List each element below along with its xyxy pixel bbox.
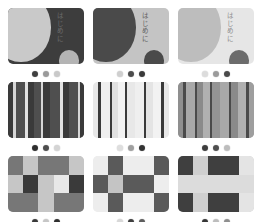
swatch-row — [202, 143, 230, 152]
color-swatch[interactable] — [224, 219, 230, 223]
palette-preview-tile[interactable] — [8, 156, 84, 212]
palette-grid: はじめにはじめにはじめに — [0, 0, 262, 222]
stripe-band — [164, 82, 169, 138]
checker-cell — [178, 193, 193, 212]
palette-preview-tile[interactable]: はじめに — [178, 8, 254, 64]
swatch-row — [32, 69, 60, 78]
stripe-band — [220, 82, 229, 138]
stripe-band — [153, 82, 161, 138]
checker-cell — [23, 156, 38, 175]
checker-cell — [123, 156, 138, 175]
palette-preview-tile[interactable] — [8, 82, 84, 138]
color-swatch[interactable] — [43, 71, 49, 77]
stripe-band — [69, 82, 77, 138]
color-swatch[interactable] — [54, 71, 60, 77]
checker-cell — [139, 175, 154, 194]
checker-cell — [239, 175, 254, 194]
palette-card[interactable] — [8, 82, 84, 152]
palette-preview-tile[interactable]: はじめに — [93, 8, 169, 64]
checker-cell — [69, 175, 84, 194]
palette-preview-tile[interactable] — [178, 82, 254, 138]
color-swatch[interactable] — [202, 145, 208, 151]
checker-cell — [193, 156, 208, 175]
checker-cell — [193, 175, 208, 194]
color-swatch[interactable] — [117, 145, 123, 151]
color-swatch[interactable] — [139, 71, 145, 77]
stripe-band — [135, 82, 144, 138]
stripe-band — [238, 82, 246, 138]
palette-preview-tile[interactable] — [178, 156, 254, 212]
stripe-band — [212, 82, 220, 138]
color-swatch[interactable] — [202, 71, 208, 77]
checker-cell — [139, 193, 154, 212]
checker-cell — [69, 193, 84, 212]
checker-cell — [8, 193, 23, 212]
palette-card[interactable] — [93, 82, 169, 152]
stripe-pattern — [178, 82, 254, 138]
color-swatch[interactable] — [32, 219, 38, 223]
small-circle-shape — [59, 50, 80, 64]
color-swatch[interactable] — [213, 145, 219, 151]
color-swatch[interactable] — [139, 219, 145, 223]
color-swatch[interactable] — [213, 71, 219, 77]
swatch-row — [117, 143, 145, 152]
checker-cell — [224, 175, 239, 194]
checker-cell — [38, 156, 53, 175]
checker-pattern — [8, 156, 84, 212]
color-swatch[interactable] — [224, 71, 230, 77]
stripe-band — [231, 82, 238, 138]
color-swatch[interactable] — [43, 145, 49, 151]
checker-cell — [93, 175, 108, 194]
stripe-band — [101, 82, 110, 138]
checker-cell — [154, 156, 169, 175]
palette-card[interactable] — [178, 82, 254, 152]
stripe-band — [203, 82, 210, 138]
color-swatch[interactable] — [43, 219, 49, 223]
checker-cell — [208, 175, 223, 194]
palette-card[interactable]: はじめに — [93, 8, 169, 78]
stripe-band — [249, 82, 254, 138]
swatch-row — [32, 143, 60, 152]
palette-card[interactable]: はじめに — [8, 8, 84, 78]
palette-card[interactable] — [178, 156, 254, 222]
palette-preview-tile[interactable]: はじめに — [8, 8, 84, 64]
color-swatch[interactable] — [202, 219, 208, 223]
checker-cell — [123, 193, 138, 212]
swatch-row — [202, 69, 230, 78]
color-swatch[interactable] — [54, 219, 60, 223]
swatch-row — [117, 217, 145, 222]
color-swatch[interactable] — [128, 145, 134, 151]
palette-preview-tile[interactable] — [93, 156, 169, 212]
checker-cell — [93, 193, 108, 212]
checker-cell — [123, 175, 138, 194]
color-swatch[interactable] — [32, 145, 38, 151]
color-swatch[interactable] — [54, 145, 60, 151]
large-circle-shape — [178, 8, 221, 62]
color-swatch[interactable] — [117, 219, 123, 223]
color-swatch[interactable] — [32, 71, 38, 77]
checker-cell — [108, 193, 123, 212]
checker-cell — [54, 193, 69, 212]
color-swatch[interactable] — [139, 145, 145, 151]
stripe-band — [16, 82, 26, 138]
color-swatch[interactable] — [117, 71, 123, 77]
color-swatch[interactable] — [213, 219, 219, 223]
color-swatch[interactable] — [128, 71, 134, 77]
checker-cell — [239, 193, 254, 212]
checker-cell — [208, 156, 223, 175]
color-swatch[interactable] — [128, 219, 134, 223]
checker-cell — [193, 193, 208, 212]
checker-cell — [178, 156, 193, 175]
stripe-band — [43, 82, 51, 138]
checker-pattern — [93, 156, 169, 212]
palette-card[interactable] — [8, 156, 84, 222]
color-swatch[interactable] — [224, 145, 230, 151]
large-circle-shape — [93, 8, 136, 62]
palette-preview-tile[interactable] — [93, 82, 169, 138]
palette-card[interactable] — [93, 156, 169, 222]
checker-cell — [54, 175, 69, 194]
palette-card[interactable]: はじめに — [178, 8, 254, 78]
checker-cell — [154, 175, 169, 194]
checker-cell — [208, 193, 223, 212]
checker-cell — [154, 193, 169, 212]
